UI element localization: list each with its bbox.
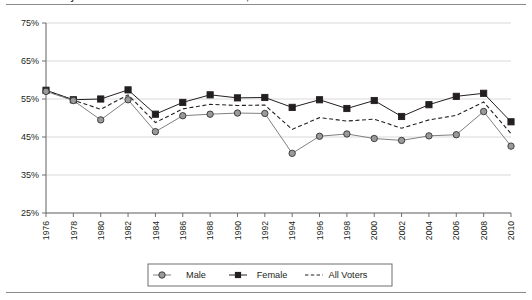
data-point-male-1982 — [125, 97, 131, 103]
bottom-divider-rule — [6, 292, 526, 293]
data-point-female-2000 — [371, 97, 377, 103]
data-point-male-1994 — [289, 150, 295, 156]
x-tick-label-1984: 1984 — [151, 221, 161, 240]
x-tick-label-1980: 1980 — [96, 221, 106, 240]
series-line-all-voters — [46, 91, 511, 134]
x-tick-label-1978: 1978 — [69, 221, 79, 240]
data-point-female-1980 — [98, 96, 104, 102]
x-tick-label-2002: 2002 — [397, 221, 407, 240]
legend-label-male: Male — [186, 270, 206, 280]
x-tick-label-1998: 1998 — [342, 221, 352, 240]
y-tick-label-75: 75% — [21, 18, 39, 28]
legend-marker-female — [235, 272, 241, 278]
data-point-male-1996 — [316, 133, 322, 139]
x-tick-label-1992: 1992 — [260, 221, 270, 240]
x-tick-label-2008: 2008 — [479, 221, 489, 240]
data-point-female-2006 — [453, 93, 459, 99]
x-tick-label-2004: 2004 — [424, 221, 434, 240]
data-point-male-2004 — [426, 133, 432, 139]
data-point-male-1990 — [234, 110, 240, 116]
x-tick-label-1996: 1996 — [315, 221, 325, 240]
y-tick-label-35: 35% — [21, 170, 39, 180]
data-point-female-1992 — [262, 94, 268, 100]
x-tick-label-2000: 2000 — [369, 221, 379, 240]
data-point-female-1982 — [125, 87, 131, 93]
legend-label-all-voters: All Voters — [329, 270, 368, 280]
data-point-male-1978 — [70, 97, 76, 103]
data-point-male-2006 — [453, 132, 459, 138]
x-tick-label-1994: 1994 — [287, 221, 297, 240]
data-point-male-1976 — [43, 88, 49, 94]
data-point-male-1984 — [152, 128, 158, 134]
legend-marker-male — [159, 272, 165, 278]
data-point-male-2008 — [480, 108, 486, 114]
line-chart-plot: 25%35%45%55%65%75%1976197819801982198419… — [0, 0, 532, 300]
data-point-male-1998 — [344, 131, 350, 137]
x-tick-label-1976: 1976 — [41, 221, 51, 240]
y-tick-label-25: 25% — [21, 208, 39, 218]
data-point-male-1986 — [180, 113, 186, 119]
data-point-female-1994 — [289, 104, 295, 110]
x-tick-label-1982: 1982 — [123, 221, 133, 240]
data-point-female-1986 — [180, 99, 186, 105]
data-point-female-1988 — [207, 92, 213, 98]
y-tick-label-45: 45% — [21, 132, 39, 142]
x-tick-label-2010: 2010 — [506, 221, 516, 240]
data-point-male-2010 — [508, 143, 514, 149]
data-point-male-1992 — [262, 110, 268, 116]
data-point-female-2008 — [481, 90, 487, 96]
data-point-female-2002 — [398, 113, 404, 119]
data-point-male-1988 — [207, 111, 213, 117]
figure-container: Voter Turnout by Sex in Presidential and… — [0, 0, 532, 300]
data-point-female-2004 — [426, 102, 432, 108]
data-point-male-2002 — [398, 137, 404, 143]
data-point-female-1990 — [234, 95, 240, 101]
x-tick-label-1990: 1990 — [233, 221, 243, 240]
data-point-female-1996 — [316, 97, 322, 103]
x-tick-label-2006: 2006 — [451, 221, 461, 240]
data-point-female-1998 — [344, 105, 350, 111]
legend-label-female: Female — [257, 270, 288, 280]
data-point-female-2010 — [508, 119, 514, 125]
y-tick-label-65: 65% — [21, 56, 39, 66]
x-tick-label-1988: 1988 — [205, 221, 215, 240]
x-tick-label-1986: 1986 — [178, 221, 188, 240]
y-tick-label-55: 55% — [21, 94, 39, 104]
data-point-female-1984 — [152, 111, 158, 117]
data-point-male-2000 — [371, 135, 377, 141]
data-point-male-1980 — [98, 117, 104, 123]
